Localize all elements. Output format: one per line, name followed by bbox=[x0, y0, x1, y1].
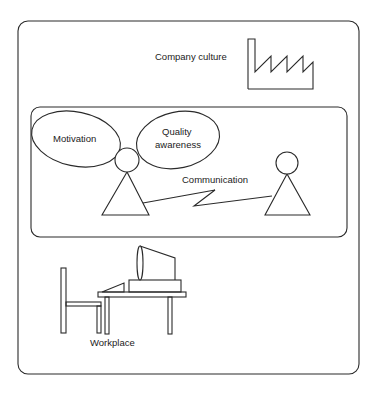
company-culture-label: Company culture bbox=[155, 51, 227, 62]
communication-label: Communication bbox=[182, 174, 248, 185]
factory-icon bbox=[248, 39, 313, 89]
lightning-bolt-icon bbox=[143, 190, 272, 206]
motivation-label: Motivation bbox=[53, 133, 96, 144]
right-person-icon bbox=[265, 152, 310, 215]
quality-label: Quality bbox=[162, 126, 192, 137]
quality-awareness-bubble: Quality awareness bbox=[131, 104, 225, 176]
computer-monitor-icon bbox=[129, 246, 181, 292]
awareness-label: awareness bbox=[155, 139, 201, 150]
desk-icon bbox=[98, 292, 186, 334]
motivation-bubble: Motivation bbox=[26, 103, 125, 175]
chair-icon bbox=[61, 268, 101, 333]
diagram-canvas: Company culture Motivation Quality aware… bbox=[0, 0, 380, 398]
company-culture-frame bbox=[18, 21, 359, 374]
workplace-label: Workplace bbox=[90, 337, 135, 348]
keyboard-icon bbox=[102, 283, 124, 292]
